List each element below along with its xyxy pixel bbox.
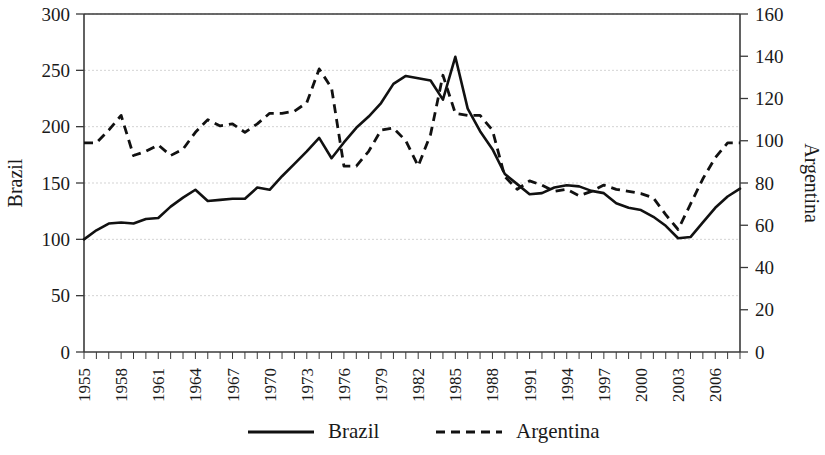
right-tick-label: 160	[755, 4, 784, 25]
legend-label-brazil: Brazil	[328, 419, 379, 443]
left-tick-label: 250	[42, 60, 71, 81]
chart-legend: BrazilArgentina	[248, 419, 600, 443]
x-tick-label: 1985	[446, 368, 465, 402]
chart-container: 050100150200250300 020406080100120140160…	[0, 0, 825, 455]
x-tick-label: 1976	[335, 368, 354, 402]
left-tick-label: 50	[51, 285, 70, 306]
left-tick-label: 300	[42, 4, 71, 25]
x-tick-label: 1958	[112, 368, 131, 402]
left-tick-label: 0	[61, 342, 71, 363]
x-tick-label: 2006	[706, 368, 725, 402]
x-tick-label: 1988	[483, 368, 502, 402]
x-tick-label: 2003	[669, 368, 688, 402]
x-tick-label: 2000	[632, 368, 651, 402]
right-tick-label: 40	[755, 257, 774, 278]
x-tick-label: 1979	[372, 368, 391, 402]
x-tick-label: 1970	[261, 368, 280, 402]
right-tick-label: 0	[755, 342, 765, 363]
x-tick-label: 1967	[224, 368, 243, 403]
left-tick-label: 100	[42, 229, 71, 250]
right-tick-label: 120	[755, 88, 784, 109]
right-tick-label: 20	[755, 299, 774, 320]
x-tick-label: 1997	[595, 368, 614, 403]
x-tick-label: 1982	[409, 368, 428, 402]
series-line-argentina	[84, 69, 740, 230]
x-tick-label: 1955	[75, 368, 94, 402]
data-series-group	[84, 57, 740, 240]
line-chart-svg: 050100150200250300 020406080100120140160…	[0, 0, 825, 455]
x-tick-label: 1964	[186, 368, 205, 403]
x-tick-label: 1961	[149, 368, 168, 402]
right-tick-label: 100	[755, 130, 784, 151]
right-axis-ticks: 020406080100120140160	[740, 4, 784, 363]
right-tick-label: 140	[755, 46, 784, 67]
right-tick-label: 60	[755, 215, 774, 236]
x-tick-label: 1991	[521, 368, 540, 402]
legend-label-argentina: Argentina	[516, 419, 600, 443]
x-tick-label: 1994	[558, 368, 577, 403]
right-tick-label: 80	[755, 173, 774, 194]
right-axis-title: Argentina	[800, 143, 823, 223]
left-tick-label: 150	[42, 173, 71, 194]
left-axis-title: Brazil	[4, 158, 26, 207]
x-tick-label: 1973	[298, 368, 317, 402]
gridlines-group	[84, 14, 740, 296]
left-tick-label: 200	[42, 116, 71, 137]
series-line-brazil	[84, 57, 740, 240]
bottom-axis-ticks: 1955195819611964196719701973197619791982…	[75, 352, 740, 402]
left-axis-ticks: 050100150200250300	[42, 4, 85, 363]
